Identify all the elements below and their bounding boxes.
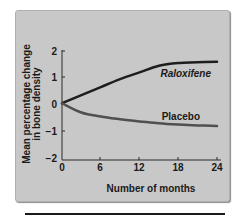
placebo-label: Placebo: [162, 111, 200, 122]
line-chart: Mean percentage change in bone density 2…: [0, 0, 243, 217]
x-tick-label: 12: [133, 162, 145, 173]
y-tick-label: 2: [51, 46, 57, 57]
x-tick-label: 6: [97, 162, 103, 173]
raloxifene-label: Raloxifene: [160, 68, 211, 79]
x-axis-label: Number of months: [107, 183, 196, 194]
y-tick-label: −2: [46, 153, 58, 164]
x-ticks: 0 6 12 18 24: [59, 157, 223, 173]
y-axis-label: Mean percentage change in bone density: [21, 44, 42, 164]
y-axis-label-line2: in bone density: [31, 67, 42, 141]
x-tick-label: 18: [172, 162, 184, 173]
x-tick-label: 24: [211, 162, 223, 173]
x-tick-label: 0: [59, 162, 65, 173]
y-tick-label: 1: [51, 72, 57, 83]
y-tick-label: 0: [51, 99, 57, 110]
y-tick-label: −1: [46, 126, 58, 137]
caption-divider: [25, 213, 225, 215]
